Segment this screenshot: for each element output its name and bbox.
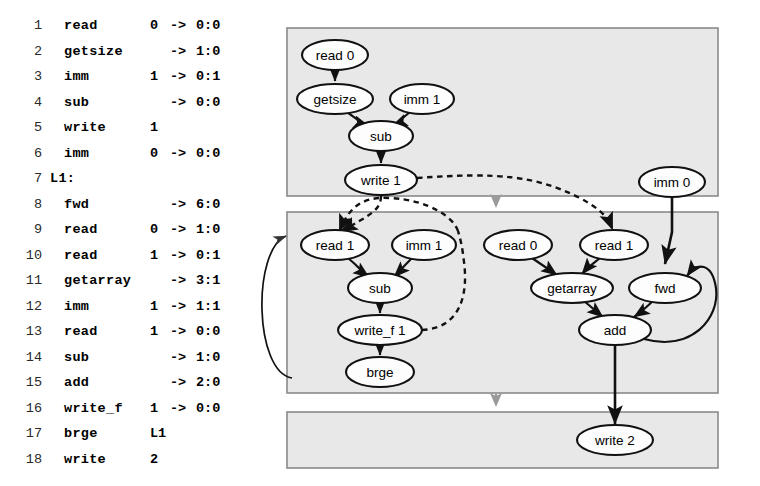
n-write2: write 2 [577,425,653,455]
code-line: 16write_f1->0:0 [0,401,280,427]
assign-arrow: -> [170,248,196,263]
code-line: 3imm1->0:1 [0,69,280,95]
destination: 1:0 [196,222,220,237]
opcode: read [64,248,150,263]
node-label: sub [369,281,391,296]
destination: 0:0 [196,95,220,110]
node-label: fwd [654,281,675,296]
operand: 1 [150,299,170,314]
line-number: 6 [0,146,42,161]
line-number: 5 [0,120,42,135]
code-line: 5write1 [0,120,280,146]
node-label: write 1 [360,173,401,188]
destination: 0:1 [196,248,220,263]
opcode: read [64,222,150,237]
assign-arrow: -> [170,44,196,59]
dataflow-graph: read 0getsizeimm 1subwrite 1imm 0read 1i… [250,0,760,486]
operand: 1 [150,120,170,135]
line-number: 11 [0,273,42,288]
code-line: 6imm0->0:0 [0,146,280,172]
code-line: 9read0->1:0 [0,222,280,248]
operand: 0 [150,146,170,161]
n-read0-mid: read 0 [484,230,552,260]
node-label: brge [366,365,393,380]
line-number: 4 [0,95,42,110]
opcode: sub [64,95,150,110]
opcode: getsize [64,44,150,59]
line-number: 16 [0,401,42,416]
destination: 1:0 [196,44,220,59]
line-number: 12 [0,299,42,314]
assign-arrow: -> [170,69,196,84]
n-add: add [579,315,651,345]
operand: 1 [150,69,170,84]
destination: 1:1 [196,299,220,314]
n-read1-a: read 1 [301,230,369,260]
operand: 0 [150,222,170,237]
n-sub-top: sub [349,121,413,151]
code-line: 13read1->0:0 [0,324,280,350]
assign-arrow: -> [170,350,196,365]
destination: 0:0 [196,401,220,416]
operand: 1 [150,248,170,263]
line-number: 8 [0,197,42,212]
node-label: read 1 [316,238,354,253]
n-write1: write 1 [345,165,417,195]
opcode: imm [64,69,150,84]
line-number: 18 [0,452,42,467]
code-line: 2getsize->1:0 [0,44,280,70]
code-line: 17brgeL1 [0,426,280,452]
node-label: read 0 [499,238,537,253]
operand: 1 [150,401,170,416]
operand: 0 [150,18,170,33]
opcode: brge [64,426,150,441]
line-number: 9 [0,222,42,237]
destination: 0:0 [196,146,220,161]
code-line: 18write2 [0,452,280,478]
assign-arrow: -> [170,146,196,161]
n-brge: brge [346,357,414,387]
line-number: 7 [0,171,42,186]
code-line: 1read0->0:0 [0,18,280,44]
opcode: read [64,18,150,33]
n-read1-b: read 1 [580,230,648,260]
n-imm1-mid: imm 1 [392,230,456,260]
line-number: 17 [0,426,42,441]
n-read0-top: read 0 [302,40,368,70]
assign-arrow: -> [170,273,196,288]
line-number: 3 [0,69,42,84]
node-label: imm 1 [404,92,441,107]
opcode: getarray [64,273,150,288]
code-line: 8fwd->6:0 [0,197,280,223]
destination: 6:0 [196,197,220,212]
assign-arrow: -> [170,324,196,339]
opcode: sub [64,350,150,365]
opcode: add [64,375,150,390]
line-number: 13 [0,324,42,339]
n-getarray: getarray [531,273,613,303]
n-writef1: write_f 1 [338,315,422,345]
n-imm0: imm 0 [639,167,705,197]
node-label: imm 1 [406,238,443,253]
destination: 0:0 [196,324,220,339]
code-line: 7L1: [0,171,280,197]
code-line: 14sub->1:0 [0,350,280,376]
opcode: write_f [64,401,150,416]
node-label: getsize [314,92,357,107]
node-label: read 1 [595,238,633,253]
line-number: 2 [0,44,42,59]
operand: 2 [150,452,170,467]
assign-arrow: -> [170,299,196,314]
opcode: fwd [64,197,150,212]
node-label: read 0 [316,48,354,63]
instruction-listing: 1read0->0:02getsize->1:03imm1->0:14sub->… [0,18,280,477]
assign-arrow: -> [170,401,196,416]
line-number: 14 [0,350,42,365]
destination: 2:0 [196,375,220,390]
assign-arrow: -> [170,18,196,33]
node-label: getarray [547,281,597,296]
node-label: sub [370,129,392,144]
dataflow-graph-panel: read 0getsizeimm 1subwrite 1imm 0read 1i… [250,0,760,486]
operand: 1 [150,324,170,339]
assign-arrow: -> [170,95,196,110]
